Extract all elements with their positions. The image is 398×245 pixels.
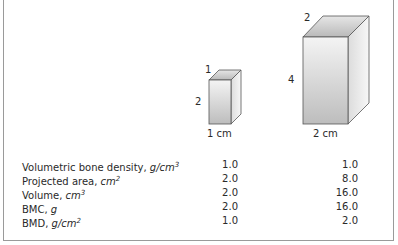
small-box-value: 2.0 — [210, 200, 238, 214]
row-label: BMD, — [22, 218, 52, 229]
large-box-depth-label: 2 — [304, 12, 310, 23]
small-box-height-label: 2 — [195, 96, 201, 107]
table-row: BMD, g/cm2 1.0 2.0 — [22, 214, 342, 228]
small-box-value: 1.0 — [210, 158, 238, 172]
large-box-width-label: 2 cm — [313, 128, 338, 139]
large-box-value: 16.0 — [332, 200, 358, 214]
large-box — [303, 16, 369, 124]
large-box-value: 1.0 — [332, 158, 358, 172]
large-box-value: 2.0 — [332, 214, 358, 228]
table-row: BMC, g 2.0 16.0 — [22, 200, 342, 214]
small-box-depth-label: 1 — [205, 64, 211, 75]
small-box-value: 2.0 — [210, 172, 238, 186]
table-row: Projected area, cm2 2.0 8.0 — [22, 172, 342, 186]
small-box — [209, 70, 241, 124]
table-row: Volume, cm3 2.0 16.0 — [22, 186, 342, 200]
small-box-width-label: 1 cm — [207, 128, 232, 139]
bone-density-table: Volumetric bone density, g/cm3 1.0 1.0 P… — [22, 158, 342, 228]
large-box-value: 8.0 — [332, 172, 358, 186]
small-box-value: 1.0 — [210, 214, 238, 228]
row-unit: g/cm2 — [52, 218, 81, 229]
small-box-value: 2.0 — [210, 186, 238, 200]
large-box-height-label: 4 — [288, 74, 294, 85]
table-row: Volumetric bone density, g/cm3 1.0 1.0 — [22, 158, 342, 172]
large-box-value: 16.0 — [332, 186, 358, 200]
